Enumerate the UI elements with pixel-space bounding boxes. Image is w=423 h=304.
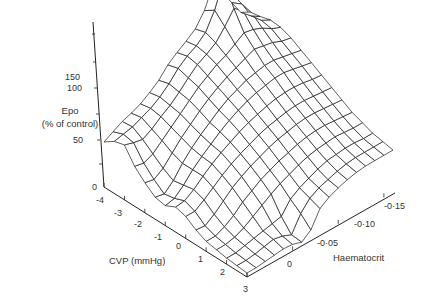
chart-root: Epo (% of control) 150 100 50 0 -4 -3 -2… bbox=[0, 0, 423, 304]
x-tick-1: 1 bbox=[198, 255, 203, 264]
y-tick-0: 0 bbox=[287, 260, 292, 269]
x-tick-3: 3 bbox=[243, 285, 248, 294]
z-axis-title: Epo (% of control) bbox=[30, 104, 110, 130]
x-tick-neg4: -4 bbox=[96, 196, 104, 205]
y-tick-005: -0·05 bbox=[317, 239, 338, 248]
surface-mesh bbox=[104, 0, 393, 273]
x-tick-neg3: -3 bbox=[114, 209, 122, 218]
z-tick-0: 0 bbox=[92, 183, 97, 192]
z-tick-50: 50 bbox=[73, 136, 83, 145]
x-tick-2: 2 bbox=[220, 268, 225, 277]
x-tick-0: 0 bbox=[176, 242, 181, 251]
y-tick-015: -0·15 bbox=[384, 202, 405, 211]
x-axis-title: CVP (mmHg) bbox=[109, 256, 165, 266]
y-axis-title: Haematocrit bbox=[333, 253, 384, 263]
z-axis-title-line2: (% of control) bbox=[30, 117, 110, 130]
z-tick-100: 100 bbox=[67, 84, 82, 93]
x-tick-neg2: -2 bbox=[134, 220, 142, 229]
y-tick-010: -0·10 bbox=[354, 220, 375, 229]
z-tick-150: 150 bbox=[65, 73, 80, 82]
x-tick-neg1: -1 bbox=[154, 233, 162, 242]
z-axis-title-line1: Epo bbox=[30, 104, 110, 117]
